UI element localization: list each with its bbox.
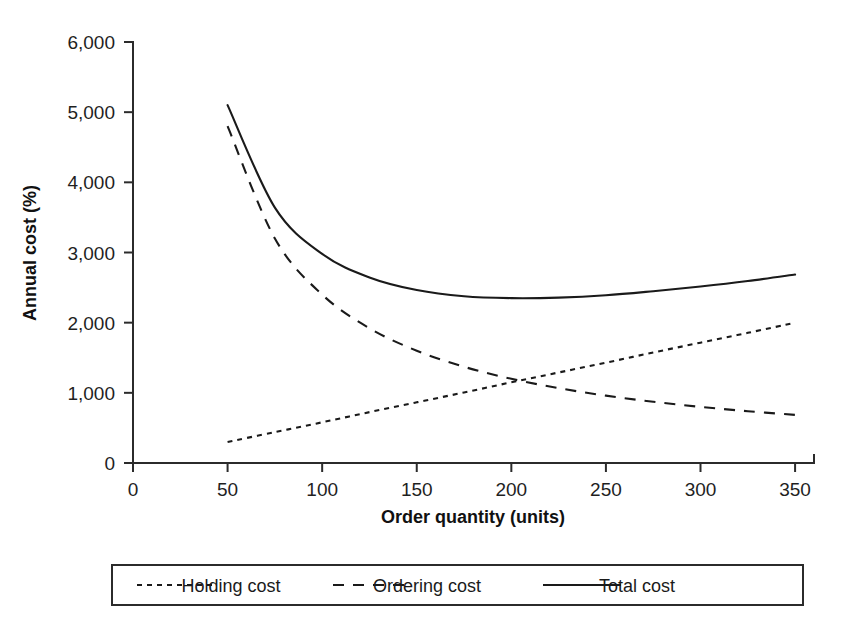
legend-label: Holding cost	[181, 576, 280, 596]
x-axis-title: Order quantity (units)	[381, 507, 565, 527]
series-line-holding-cost	[228, 323, 796, 442]
x-tick-label: 350	[779, 479, 811, 500]
series-line-ordering-cost	[228, 126, 796, 415]
y-tick-label: 1,000	[67, 383, 115, 404]
legend-label: Total cost	[599, 576, 675, 596]
y-axis-ticks: 01,0002,0003,0004,0005,0006,000	[67, 32, 133, 474]
x-tick-label: 0	[128, 479, 139, 500]
y-tick-label: 5,000	[67, 102, 115, 123]
x-tick-label: 100	[306, 479, 338, 500]
y-tick-label: 2,000	[67, 313, 115, 334]
chart-canvas: 01,0002,0003,0004,0005,0006,000 05010015…	[0, 0, 861, 639]
x-tick-label: 200	[495, 479, 527, 500]
y-tick-label: 3,000	[67, 243, 115, 264]
y-tick-label: 6,000	[67, 32, 115, 53]
legend: Holding costOrdering costTotal cost	[112, 565, 803, 605]
x-tick-label: 300	[685, 479, 717, 500]
y-tick-label: 4,000	[67, 172, 115, 193]
series-group	[228, 105, 796, 442]
eoq-cost-chart: 01,0002,0003,0004,0005,0006,000 05010015…	[0, 0, 861, 639]
x-tick-label: 50	[217, 479, 238, 500]
x-tick-label: 250	[590, 479, 622, 500]
x-axis-ticks: 050100150200250300350	[128, 463, 811, 500]
y-tick-label: 0	[104, 453, 115, 474]
y-axis-title: Annual cost (%)	[20, 185, 40, 321]
series-line-total-cost	[228, 105, 796, 298]
x-tick-label: 150	[401, 479, 433, 500]
legend-label: Ordering cost	[373, 576, 481, 596]
